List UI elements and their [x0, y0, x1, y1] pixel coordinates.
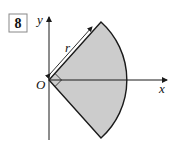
- x-axis-label: x: [158, 81, 165, 96]
- sector-diagram: 8 y x O r: [0, 0, 175, 146]
- problem-number: 8: [15, 16, 22, 31]
- y-axis-label: y: [35, 12, 43, 27]
- radius-label: r: [65, 40, 71, 55]
- origin-label: O: [36, 77, 46, 92]
- problem-number-box: 8: [9, 14, 27, 32]
